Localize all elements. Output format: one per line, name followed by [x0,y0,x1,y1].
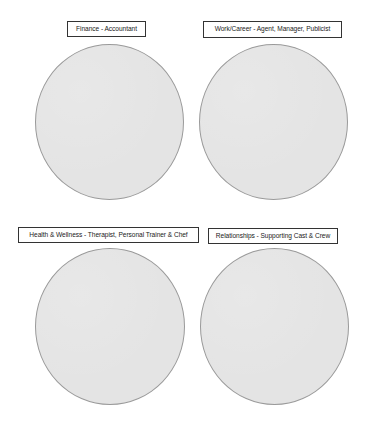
label-relationships-text: Relationships - Supporting Cast & Crew [216,233,330,240]
label-relationships: Relationships - Supporting Cast & Crew [208,228,338,244]
label-health-wellness: Health & Wellness - Therapist, Personal … [18,227,199,243]
label-work-career: Work/Career - Agent, Manager, Publicist [203,21,342,38]
label-finance: Finance - Accountant [67,21,146,37]
label-work-career-text: Work/Career - Agent, Manager, Publicist [215,26,331,33]
circle-health-wellness [35,248,185,405]
circle-relationships [200,248,349,405]
circle-finance [35,44,184,200]
label-finance-text: Finance - Accountant [76,26,137,33]
circle-work-career [199,44,348,200]
label-health-wellness-text: Health & Wellness - Therapist, Personal … [29,232,187,239]
